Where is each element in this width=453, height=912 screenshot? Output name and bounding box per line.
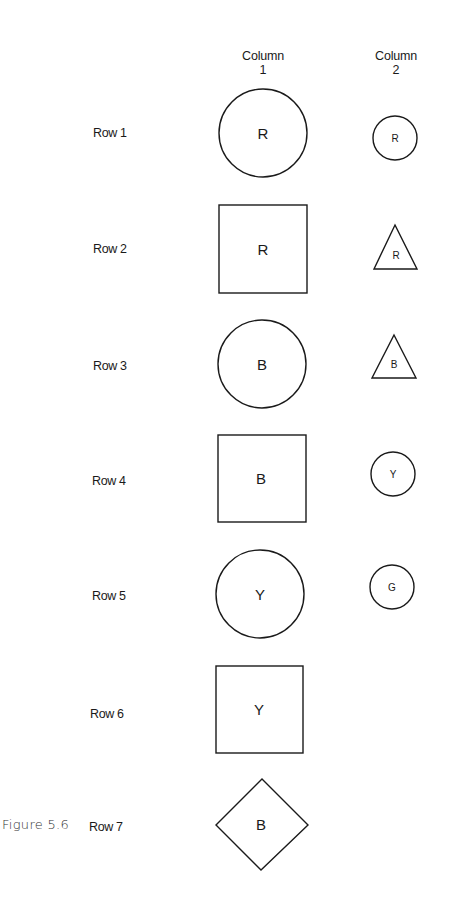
- shapes-layer: R R R R B B B Y: [0, 0, 453, 912]
- row2-col1-square-icon: R: [219, 205, 307, 293]
- row5-col1-letter: Y: [255, 586, 265, 603]
- figure-canvas: Column 1 Column 2 Row 1 Row 2 Row 3 Row …: [0, 0, 453, 912]
- row3-col2-triangle-icon: B: [372, 335, 416, 378]
- row4-col2-letter: Y: [390, 469, 397, 480]
- row5-col2-circle-icon: G: [370, 565, 414, 609]
- row3-col2-letter: B: [391, 359, 398, 370]
- row5-col2-letter: G: [388, 582, 396, 593]
- row2-col2-triangle-icon: R: [374, 225, 417, 269]
- row3-col1-circle-icon: B: [218, 320, 306, 408]
- row4-col2-circle-icon: Y: [371, 452, 415, 496]
- row1-col2-letter: R: [391, 133, 398, 144]
- row1-col1-letter: R: [258, 125, 269, 142]
- row4-col1-square-icon: B: [218, 435, 306, 522]
- row3-col1-letter: B: [257, 356, 267, 373]
- row2-col2-letter: R: [392, 250, 399, 261]
- row7-col1-letter: B: [256, 816, 266, 833]
- row1-col1-circle-icon: R: [219, 89, 307, 177]
- row6-col1-square-icon: Y: [216, 666, 303, 753]
- row2-col1-letter: R: [258, 241, 269, 258]
- row6-col1-letter: Y: [254, 701, 264, 718]
- row4-col1-letter: B: [256, 470, 266, 487]
- row5-col1-circle-icon: Y: [216, 550, 304, 638]
- row1-col2-circle-icon: R: [373, 116, 417, 160]
- row7-col1-diamond-icon: B: [216, 779, 308, 870]
